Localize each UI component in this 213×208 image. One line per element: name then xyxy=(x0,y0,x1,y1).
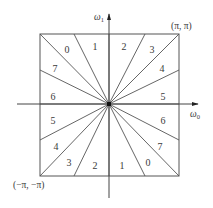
region-label: 4 xyxy=(54,141,59,152)
region-label: 0 xyxy=(146,157,151,168)
region-label: 1 xyxy=(120,160,125,171)
region-label: 3 xyxy=(150,44,155,55)
partition-ray xyxy=(109,104,179,140)
region-label: 6 xyxy=(51,91,56,102)
region-label: 5 xyxy=(51,115,56,126)
partition-ray xyxy=(109,34,179,104)
region-label: 3 xyxy=(67,157,72,168)
origin-marker xyxy=(107,102,111,106)
region-label: 1 xyxy=(93,41,98,52)
region-label: 5 xyxy=(161,91,166,102)
partition-ray xyxy=(74,104,109,176)
omega0-axis-label: ω0 xyxy=(190,109,200,120)
frequency-partition-diagram: ω1 ω0 (π, π) (−π, −π) 0123746556473210 xyxy=(0,0,213,208)
region-label: 6 xyxy=(161,115,166,126)
omega1-axis-label: ω1 xyxy=(94,12,104,23)
partition-ray xyxy=(109,34,145,104)
corner-label-top-right: (π, π) xyxy=(171,21,192,32)
partition-ray xyxy=(74,34,109,104)
partition-ray xyxy=(109,70,179,104)
region-label: 4 xyxy=(160,63,165,74)
region-label: 7 xyxy=(158,141,163,152)
partition-ray xyxy=(109,104,145,176)
region-label: 7 xyxy=(53,63,58,74)
region-label: 2 xyxy=(93,160,98,171)
region-label: 2 xyxy=(122,41,127,52)
corner-label-bottom-left: (−π, −π) xyxy=(13,180,44,191)
region-label: 0 xyxy=(65,44,70,55)
